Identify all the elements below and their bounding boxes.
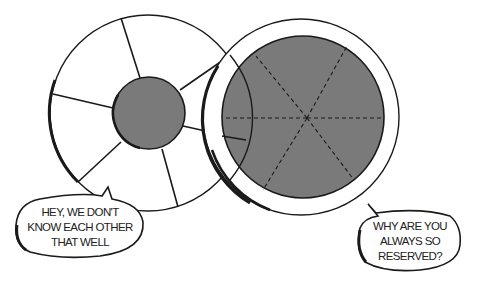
right-bubble-line-2: ALWAYS SO xyxy=(360,234,460,249)
left-bubble-text: HEY, WE DON'T KNOW EACH OTHER THAT WELL xyxy=(18,205,142,250)
left-bubble-line-2: KNOW EACH OTHER xyxy=(18,220,142,235)
right-bubble-text: WHY ARE YOU ALWAYS SO RESERVED? xyxy=(360,219,460,264)
left-bubble-line-1: HEY, WE DON'T xyxy=(18,205,142,220)
right-bubble-line-1: WHY ARE YOU xyxy=(360,219,460,234)
left-bubble-line-3: THAT WELL xyxy=(18,235,142,250)
right-large-core xyxy=(222,36,384,198)
right-closed-figure xyxy=(202,19,399,215)
right-bubble-line-3: RESERVED? xyxy=(360,249,460,264)
